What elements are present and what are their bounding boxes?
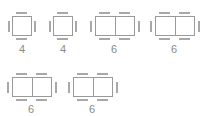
chair-icon: [179, 12, 190, 14]
chair-icon: [116, 82, 118, 93]
chair-icon: [34, 21, 36, 32]
table-top: [12, 16, 32, 36]
seat-count-label: 6: [21, 104, 41, 115]
chair-icon: [150, 21, 152, 32]
table-3[interactable]: [90, 12, 140, 40]
chair-icon: [57, 12, 68, 14]
table-divider: [32, 78, 33, 96]
chair-icon: [99, 12, 110, 14]
seat-count-label: 6: [82, 104, 102, 115]
chair-icon: [159, 38, 170, 40]
chair-icon: [16, 12, 27, 14]
table-5[interactable]: [7, 73, 57, 101]
table-top: [73, 77, 113, 97]
chair-icon: [75, 21, 77, 32]
chair-icon: [16, 73, 27, 75]
chair-icon: [68, 82, 70, 93]
chair-icon: [77, 73, 88, 75]
chair-icon: [97, 73, 108, 75]
chair-icon: [16, 38, 27, 40]
table-1[interactable]: [8, 12, 36, 40]
seat-count-label: 6: [104, 44, 124, 55]
chair-icon: [36, 99, 47, 101]
chair-icon: [16, 99, 27, 101]
chair-icon: [49, 21, 51, 32]
chair-icon: [57, 38, 68, 40]
seat-count-label: 6: [164, 44, 184, 55]
chair-icon: [99, 38, 110, 40]
table-6[interactable]: [68, 73, 118, 101]
table-top: [12, 77, 52, 97]
chair-icon: [90, 21, 92, 32]
table-divider: [115, 17, 116, 35]
chair-icon: [138, 21, 140, 32]
chair-icon: [159, 12, 170, 14]
chair-icon: [119, 12, 130, 14]
chair-icon: [119, 38, 130, 40]
table-divider: [175, 17, 176, 35]
table-2[interactable]: [49, 12, 77, 40]
table-top: [95, 16, 135, 36]
chair-icon: [55, 82, 57, 93]
chair-icon: [77, 99, 88, 101]
table-4[interactable]: [150, 12, 200, 40]
chair-icon: [8, 21, 10, 32]
chair-icon: [198, 21, 200, 32]
chair-icon: [36, 73, 47, 75]
table-top: [53, 16, 73, 36]
seat-count-label: 4: [12, 44, 32, 55]
chair-icon: [97, 99, 108, 101]
table-divider: [93, 78, 94, 96]
seat-count-label: 4: [53, 44, 73, 55]
chair-icon: [7, 82, 9, 93]
table-top: [155, 16, 195, 36]
chair-icon: [179, 38, 190, 40]
